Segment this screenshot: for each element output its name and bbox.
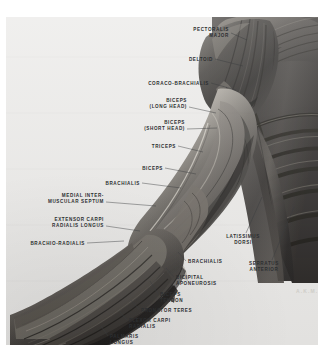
label-brachio-radialis: BRACHIO-RADIALIS — [30, 241, 85, 247]
label-flexor-carpi-radialis: FLEXOR CARPIRADIALIS — [129, 318, 171, 331]
label-bicipital-aponeurosis-line-2: APONEUROSIS — [176, 281, 217, 287]
label-medial-intermuscular-septum: MEDIAL INTER-MUSCULAR SEPTUM — [48, 193, 104, 206]
label-layer: PECTORALISMAJORDELTOIDCORACO-BRACHIALISB… — [0, 0, 336, 354]
label-brachialis-lower-line-1: BRACHIALIS — [188, 259, 223, 265]
label-flexor-carpi-radialis-line-2: RADIALIS — [129, 324, 171, 330]
label-brachialis-lower: BRACHIALIS — [188, 259, 223, 265]
label-extensor-carpi-radialis-longus-line-2: RADIALIS LONGUS — [52, 223, 104, 229]
label-medial-intermuscular-septum-line-2: MUSCULAR SEPTUM — [48, 199, 104, 205]
label-biceps-tendon-line-2: TENDON — [160, 298, 183, 304]
label-pectoralis-major: PECTORALISMAJOR — [193, 27, 229, 40]
label-triceps-line-1: TRICEPS — [152, 144, 176, 150]
label-bicipital-aponeurosis: BICIPITALAPONEUROSIS — [176, 275, 217, 288]
artist-signature: A.K.M. — [296, 288, 318, 294]
label-palmaris-longus-line-2: LONGUS — [110, 340, 139, 346]
label-biceps-long-head-line-2: (LONG HEAD) — [150, 104, 187, 110]
label-triceps: TRICEPS — [152, 144, 176, 150]
label-latissimus-dorsi-line-2: DORSI — [226, 240, 260, 246]
label-pronator-teres-line-1: PRONATOR TERES — [141, 308, 192, 314]
label-biceps-tendon: BICEPSTENDON — [160, 292, 183, 305]
label-brachialis-upper: BRACHIALIS — [105, 181, 140, 187]
label-biceps: BICEPS — [142, 166, 163, 172]
label-biceps-line-1: BICEPS — [142, 166, 163, 172]
label-deltoid-line-1: DELTOID — [189, 57, 213, 63]
label-pectoralis-major-line-2: MAJOR — [193, 33, 229, 39]
label-biceps-short-head-line-2: (SHORT HEAD) — [144, 126, 185, 132]
label-deltoid: DELTOID — [189, 57, 213, 63]
label-brachialis-upper-line-1: BRACHIALIS — [105, 181, 140, 187]
label-palmaris-longus: PALMARISLONGUS — [110, 334, 139, 347]
label-biceps-short-head: BICEPS(SHORT HEAD) — [144, 120, 185, 133]
label-biceps-long-head: BICEPS(LONG HEAD) — [150, 98, 187, 111]
label-extensor-carpi-radialis-longus: EXTENSOR CARPIRADIALIS LONGUS — [52, 217, 104, 230]
label-brachio-radialis-line-1: BRACHIO-RADIALIS — [30, 241, 85, 247]
label-coraco-brachialis: CORACO-BRACHIALIS — [148, 81, 209, 87]
label-serratus-anterior-line-2: ANTERIOR — [249, 267, 279, 273]
label-serratus-anterior: SERRATUSANTERIOR — [249, 261, 279, 274]
label-pronator-teres: PRONATOR TERES — [141, 308, 192, 314]
label-latissimus-dorsi: LATISSIMUSDORSI — [226, 234, 260, 247]
anatomical-plate: PECTORALISMAJORDELTOIDCORACO-BRACHIALISB… — [0, 0, 336, 354]
label-coraco-brachialis-line-1: CORACO-BRACHIALIS — [148, 81, 209, 87]
